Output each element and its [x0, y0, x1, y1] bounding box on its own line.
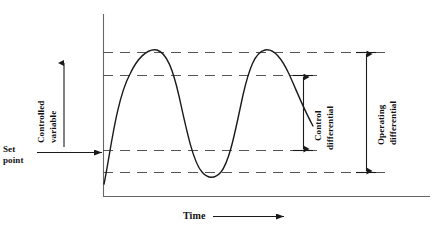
control-differential-label-line2: differential	[326, 106, 336, 150]
y-axis-label-controlled: Controlled	[37, 101, 47, 143]
controlled-variable-response-curve	[104, 50, 313, 184]
operating-differential-label-line1: Operating	[377, 105, 387, 145]
set-point-label-line2: point	[3, 156, 24, 166]
operating-differential-label-line2: differential	[389, 101, 399, 145]
y-axis-label-variable: variable	[49, 111, 59, 143]
figure-container: Controlled variable Set point Time Contr…	[0, 0, 442, 237]
set-point-label-line1: Set	[3, 145, 15, 155]
control-differential-label-line1: Control	[314, 110, 324, 141]
x-axis-label-time: Time	[183, 211, 205, 222]
